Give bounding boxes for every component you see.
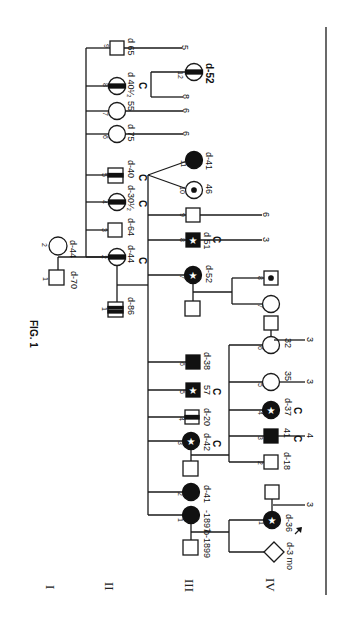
individual-II6-female (109, 126, 126, 143)
label-II9: d 65 (126, 38, 136, 56)
label-IV-diamond: d-3 mo (285, 542, 295, 570)
svg-text:6: 6 (181, 131, 191, 136)
svg-text:9: 9 (103, 44, 110, 48)
individual-III7-spouse-male (185, 301, 200, 316)
figure-title: FIG. 1 (28, 320, 39, 348)
svg-text:9: 9 (179, 213, 186, 217)
star-icon: ★ (187, 436, 196, 447)
label-II3: d-64 (126, 218, 136, 236)
gen-label-II: II (102, 582, 117, 591)
individual-IV5-female (263, 374, 280, 391)
label-II5: d-40 (126, 160, 136, 178)
label-III5: 57 (202, 385, 212, 395)
label-II4: d-30¹⁄₂ (126, 185, 136, 212)
svg-text:8: 8 (102, 83, 109, 87)
label-III12: d-52 (204, 63, 215, 84)
label-III1-spouse: b-1899 (202, 530, 212, 558)
svg-text:11: 11 (180, 160, 187, 167)
label-II7: 55 (126, 101, 136, 111)
svg-text:C: C (292, 407, 303, 414)
svg-text:6: 6 (261, 212, 271, 217)
svg-text:6: 6 (102, 135, 109, 139)
label-III10: 46 (204, 184, 214, 194)
svg-text:C: C (137, 200, 148, 207)
generation-labels: I II III IV (43, 578, 278, 592)
gen-label-III: III (182, 579, 197, 592)
svg-text:10: 10 (179, 186, 186, 194)
label-III6: d-38 (202, 352, 212, 370)
svg-text:C: C (211, 388, 222, 395)
individual-II7-female (109, 103, 126, 120)
individual-III1-spouse-male (183, 540, 198, 555)
proband-arrow-icon (295, 527, 302, 534)
svg-text:1: 1 (101, 307, 108, 311)
svg-text:1: 1 (42, 277, 49, 281)
individual-IV-diamond-sex-unknown (264, 542, 284, 562)
svg-text:4: 4 (305, 433, 315, 438)
svg-text:5: 5 (179, 390, 186, 394)
individual-III1-female-affected (183, 507, 200, 524)
pedigree-chart: FIG. 1 I II III IV 2 d-44 1 d-70 9 d 65 … (0, 0, 346, 631)
svg-text:3: 3 (257, 436, 264, 440)
svg-text:C: C (137, 82, 148, 89)
star-icon: ★ (268, 515, 277, 526)
svg-text:C: C (137, 174, 148, 181)
individual-III11-female-affected (186, 152, 203, 169)
individual-II3-male (108, 223, 122, 237)
svg-text:6: 6 (257, 346, 264, 350)
svg-text:7: 7 (257, 304, 264, 308)
individual-III2-female-affected (183, 484, 200, 501)
label-IV1: d-36 (284, 514, 294, 532)
label-IV5: 35 (283, 371, 293, 381)
label-II6: d 75 (126, 124, 136, 142)
svg-text:1: 1 (258, 521, 265, 525)
svg-text:1: 1 (177, 518, 184, 522)
label-IV2: d-18 (282, 452, 292, 470)
svg-text:3: 3 (305, 337, 315, 342)
svg-text:12: 12 (177, 71, 184, 79)
svg-text:3: 3 (101, 228, 108, 232)
individual-IV2-male (264, 455, 278, 469)
individual-IV3-male-affected (264, 429, 278, 443)
svg-text:2: 2 (257, 461, 264, 465)
svg-text:6: 6 (181, 108, 191, 113)
gen-label-I: I (43, 585, 58, 589)
svg-text:3: 3 (261, 237, 271, 242)
star-icon: ★ (267, 405, 276, 416)
svg-text:2: 2 (101, 255, 108, 259)
label-III3: d-42 (202, 433, 212, 451)
star-icon: ★ (189, 270, 198, 281)
svg-text:5: 5 (101, 173, 108, 177)
label-II2: d-44 (126, 245, 136, 263)
individual-III9-male (186, 208, 200, 222)
individual-IV6-female (263, 337, 280, 354)
label-I1: d-70 (69, 271, 79, 289)
label-III8: d 51 (202, 232, 212, 250)
svg-text:8: 8 (179, 238, 186, 242)
star-icon: ★ (189, 385, 198, 396)
label-III4: d-20 (202, 408, 212, 426)
individual-I1-male (49, 270, 64, 285)
svg-text:6: 6 (179, 362, 186, 366)
label-II8: d 40¹⁄₂ (126, 72, 136, 98)
svg-text:4: 4 (101, 200, 108, 204)
individual-III3-spouse-male (183, 461, 198, 476)
individual-IV1-spouse-male (265, 485, 279, 499)
star-icon: ★ (189, 235, 198, 246)
individual-IV6-spouse-male (264, 316, 278, 330)
gen-label-IV: IV (263, 578, 278, 592)
individual-IV7-female (263, 296, 280, 313)
svg-text:4: 4 (178, 417, 185, 421)
individual-I2-female (49, 237, 67, 255)
svg-text:5: 5 (180, 45, 190, 50)
svg-text:7: 7 (102, 112, 109, 116)
svg-text:7: 7 (179, 275, 186, 279)
svg-text:C: C (211, 440, 222, 447)
label-II1: d-86 (126, 297, 136, 315)
svg-text:2: 2 (41, 243, 48, 247)
label-IV4: d-37 (283, 398, 293, 416)
individual-III6-male-affected (186, 355, 200, 369)
label-I2: d-44 (68, 240, 78, 258)
label-III7: d-52 (204, 265, 214, 283)
individual-II9-male (110, 41, 124, 55)
